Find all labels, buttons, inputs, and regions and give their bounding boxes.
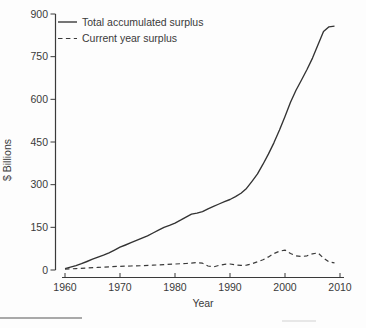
- y-tick-label: 900: [30, 8, 48, 20]
- y-tick-label: 150: [30, 221, 48, 233]
- x-tick-label: 1960: [53, 281, 77, 293]
- series-line-total-accumulated-surplus: [65, 26, 335, 268]
- bottom-left-rule: [0, 317, 82, 319]
- legend-label-current-year-surplus: Current year surplus: [82, 32, 177, 44]
- x-tick-label: 1980: [163, 281, 187, 293]
- x-axis-title: Year: [192, 297, 214, 309]
- x-tick-label: 2000: [273, 281, 297, 293]
- y-tick-label: 750: [30, 50, 48, 62]
- y-tick-label: 300: [30, 178, 48, 190]
- x-tick-label: 1990: [218, 281, 242, 293]
- scan-artifact: [282, 320, 316, 322]
- y-tick-label: 450: [30, 136, 48, 148]
- x-axis: 196019701980199020002010: [53, 273, 352, 293]
- chart-svg: 0150300450600750900 19601970198019902000…: [0, 0, 366, 328]
- y-tick-label: 600: [30, 93, 48, 105]
- y-axis: 0150300450600750900: [30, 8, 55, 276]
- legend-label-total-accumulated-surplus: Total accumulated surplus: [82, 16, 203, 28]
- y-tick-label: 0: [42, 264, 48, 276]
- chart-figure: 0150300450600750900 19601970198019902000…: [0, 0, 366, 328]
- y-axis-title: $ Billions: [1, 139, 13, 181]
- legend: Total accumulated surplus Current year s…: [58, 16, 203, 45]
- x-tick-label: 1970: [108, 281, 132, 293]
- x-tick-label: 2010: [328, 281, 352, 293]
- series-line-current-year-surplus: [65, 250, 335, 269]
